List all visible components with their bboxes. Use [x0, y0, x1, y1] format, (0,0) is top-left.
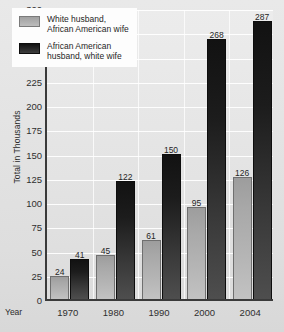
y-axis-tick-label: 25: [12, 272, 42, 282]
y-axis-tick-label: 175: [12, 127, 42, 137]
bar-value-label: 24: [55, 267, 64, 277]
bar-1990-series-0: [142, 240, 161, 299]
bar-value-label: 150: [164, 145, 178, 155]
legend-label-series-0: White husband, African American wife: [47, 14, 129, 35]
chart-legend: White husband, African American wife Afr…: [12, 8, 137, 67]
bar-1980-series-1: [116, 181, 135, 299]
legend-swatch-icon-series-1: [19, 43, 40, 54]
y-axis-tick-label: 225: [12, 78, 42, 88]
bar-2000-series-1: [207, 39, 226, 299]
bar-2000-series-0: [187, 207, 206, 299]
bar-1980-series-0: [96, 255, 115, 299]
bar-value-label: 126: [235, 168, 249, 178]
y-axis-tick-label: 50: [12, 248, 42, 258]
legend-swatch-icon-series-0: [19, 16, 40, 27]
category-separator: [138, 10, 139, 299]
bar-value-label: 45: [101, 246, 110, 256]
category-separator: [229, 10, 230, 299]
x-axis-tick-label: 2000: [194, 307, 215, 318]
y-axis-tick-label: 150: [12, 151, 42, 161]
y-axis-tick-label: 100: [12, 199, 42, 209]
bar-value-label: 41: [75, 250, 84, 260]
bar-chart-figure: Total in Thousands 025507510012515017520…: [0, 0, 284, 332]
y-axis-tick-label: 75: [12, 224, 42, 234]
y-axis-tick-label: 125: [12, 175, 42, 185]
bar-value-label: 122: [118, 172, 132, 182]
bar-value-label: 61: [146, 231, 155, 241]
x-axis-tick-label: 1990: [148, 307, 169, 318]
legend-item-series-0: White husband, African American wife: [19, 14, 129, 35]
legend-item-series-1: African American husband, white wife: [19, 41, 129, 62]
gridline: [47, 107, 273, 108]
bar-value-label: 268: [210, 30, 224, 40]
x-axis-tick-label: 1980: [103, 307, 124, 318]
bar-1990-series-1: [162, 154, 181, 300]
gridline: [47, 156, 273, 157]
y-axis-tick-label: 200: [12, 102, 42, 112]
x-axis: Year 19701980199020002004: [0, 305, 284, 323]
bar-value-label: 287: [255, 12, 269, 22]
gridline: [47, 131, 273, 132]
bar-value-label: 95: [192, 198, 201, 208]
bar-2004-series-1: [253, 21, 272, 299]
x-axis-title: Year: [5, 307, 22, 317]
x-axis-tick-label: 2004: [240, 307, 261, 318]
bar-2004-series-0: [233, 177, 252, 299]
bar-1970-series-1: [70, 259, 89, 299]
bar-1970-series-0: [50, 276, 69, 299]
category-separator: [184, 10, 185, 299]
gridline: [47, 83, 273, 84]
x-axis-tick-label: 1970: [57, 307, 78, 318]
legend-label-series-1: African American husband, white wife: [47, 41, 122, 62]
